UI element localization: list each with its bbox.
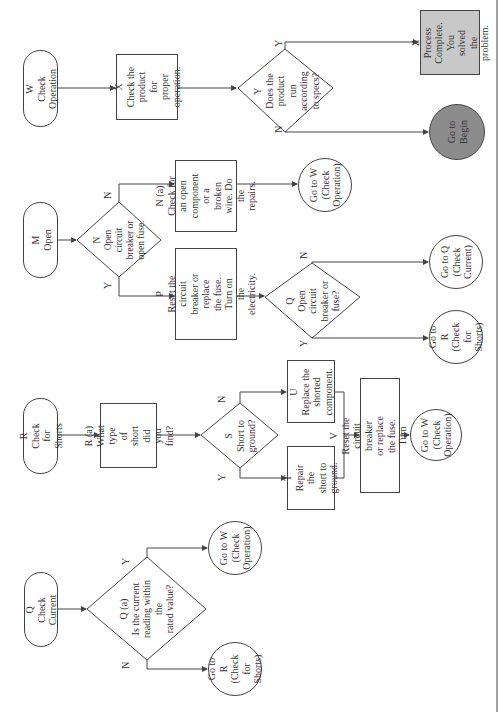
connector-go-to-w-2: Go to W (Check Operation) [410,409,462,461]
edge-label-qa-yes: Y [120,558,131,565]
decision-qa-current-reading: Q (a) Is the current reading within the … [87,557,206,660]
process-z-complete: Z Process Complete. You solved the probl… [420,10,480,75]
connector-gw2-text: Go to W (Check Operation) [419,413,454,456]
decision-s-text: S Short to ground? [222,419,257,452]
decision-n-text: N Open circuit breaker or open fuse. [92,219,147,261]
process-ra-text: R (a) What type of short did you find? [83,422,175,450]
process-v-reset-breaker: V Reset the circuit breaker or replace t… [360,378,400,493]
connector-go-to-w-3: Go to W (Check Operation) [208,521,262,575]
connector-go-to-r-2: Go to R (Check for Shorts) [208,642,262,696]
terminal-m-text: M Open [29,229,52,251]
terminal-q-check-current: Q Check Current [24,572,58,647]
edge-label-qa-no: N [120,662,131,669]
decision-n-open-breaker: N Open circuit breaker or open fuse. [77,202,161,277]
decision-q2-text: Q Open circuit breaker or fuse? [284,277,342,325]
connector-gr2-text: Go to R (Check for Shorts) [206,655,264,684]
edge-label-y-no: N [273,126,284,133]
terminal-m-open: M Open [23,202,58,278]
decision-q-open-breaker: Q Open circuit breaker or fuse? [265,263,360,338]
edge-label-n-yes: Y [102,282,113,289]
process-z-text: Z Process Complete. You solved the probl… [410,22,491,63]
process-ra-short-type: R (a) What type of short did you find? [100,403,157,468]
edge-label-s-no: N [216,396,227,403]
process-u-text: U Replace the shorted component. [288,368,334,415]
edge-label-s-yes: Y [216,474,227,481]
flowchart-canvas: W Check Operation X Check the product fo… [0,0,501,724]
decision-qa-text: Q (a) Is the current reading within the … [118,579,176,639]
connector-go-to-r-1: Go to R (Check for Shorts) [429,310,483,364]
connector-gw1-text: Go to W (Check Operation) [308,163,343,206]
terminal-r-check-shorts: R Check for Shorts [23,398,58,474]
terminal-w-text: W Check Operation [23,69,58,109]
decision-y-text: Y Does the product run according to spec… [251,67,320,115]
connector-gq-text: Go to Q (Check Current) [439,245,474,279]
process-p-reset-breaker: P Reset the circuit breaker or replace t… [175,248,237,340]
connector-begin-text: Go to Begin [446,120,469,144]
decision-y-run-to-specs: Y Does the product run according to spec… [238,49,333,132]
terminal-w-check-operation: W Check Operation [23,50,58,127]
connector-go-to-w-1: Go to W (Check Operation) [298,158,352,212]
process-x-text: X Check the product for proper operation… [113,67,182,107]
terminal-r-text: R Check for Shorts [18,423,64,449]
process-na-check-open: N (a) Check for an open component or a b… [175,160,237,232]
edge-label-y-yes: Y [273,40,284,47]
process-t-text: T Repair the short to ground. [282,463,340,494]
connector-gr1-text: Go to R (Check for Shorts) [427,323,485,352]
terminal-q-text: Q Check Current [24,594,59,625]
decision-s-short-to-ground: S Short to ground? [201,403,278,468]
edge-label-q2-no: N [298,252,309,259]
connector-go-to-begin: Go to Begin [429,104,485,160]
connector-go-to-q: Go to Q (Check Current) [429,235,483,289]
process-na-text: N (a) Check for an open component or a b… [154,174,258,218]
edge-label-n-no: N [102,192,113,199]
process-u-replace-component: U Replace the shorted component. [287,360,335,423]
process-p-text: P Reset the circuit breaker or replace t… [154,273,258,315]
connector-gw3-text: Go to W (Check Operation) [218,526,253,569]
process-x-check-product: X Check the product for proper operation… [116,54,178,120]
edge-label-q2-yes: Y [298,340,309,347]
